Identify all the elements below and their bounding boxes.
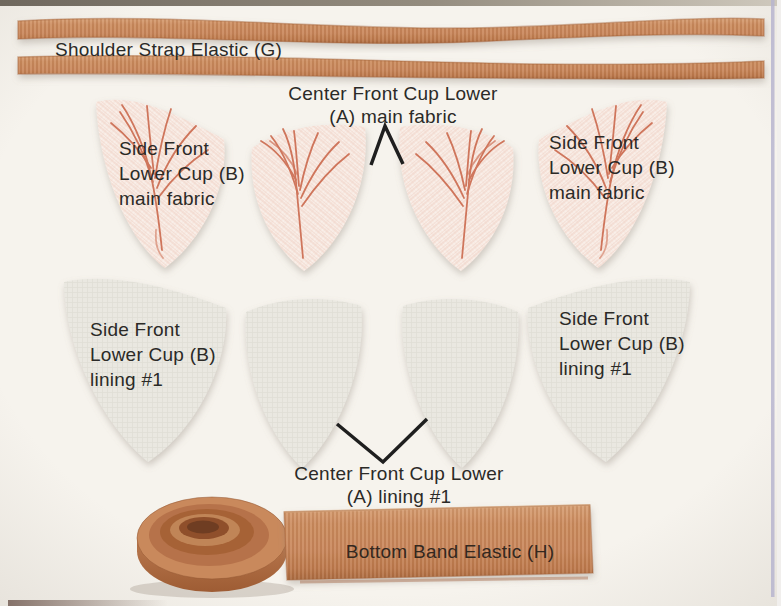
label-side-front-cup-lining-right: Side Front Lower Cup (B) lining #1	[559, 306, 685, 381]
page-right-edge-line	[771, 0, 775, 597]
photo-top-edge	[0, 0, 781, 6]
rolled-elastic-coil	[130, 497, 294, 598]
book-photo-page: Shoulder Strap Elastic (G) Center Front …	[0, 0, 781, 606]
photo-bottom-left-edge	[8, 600, 168, 606]
label-center-front-cup-main: Center Front Cup Lower (A) main fabric	[247, 82, 539, 128]
label-bottom-band-elastic: Bottom Band Elastic (H)	[330, 539, 570, 564]
label-side-front-cup-main-left: Side Front Lower Cup (B) main fabric	[119, 136, 245, 211]
label-center-front-cup-lining: Center Front Cup Lower (A) lining #1	[253, 462, 545, 508]
label-side-front-cup-lining-left: Side Front Lower Cup (B) lining #1	[90, 317, 216, 392]
label-shoulder-strap-elastic: Shoulder Strap Elastic (G)	[55, 37, 282, 62]
page-right-margin	[777, 0, 781, 606]
label-side-front-cup-main-right: Side Front Lower Cup (B) main fabric	[549, 130, 675, 205]
